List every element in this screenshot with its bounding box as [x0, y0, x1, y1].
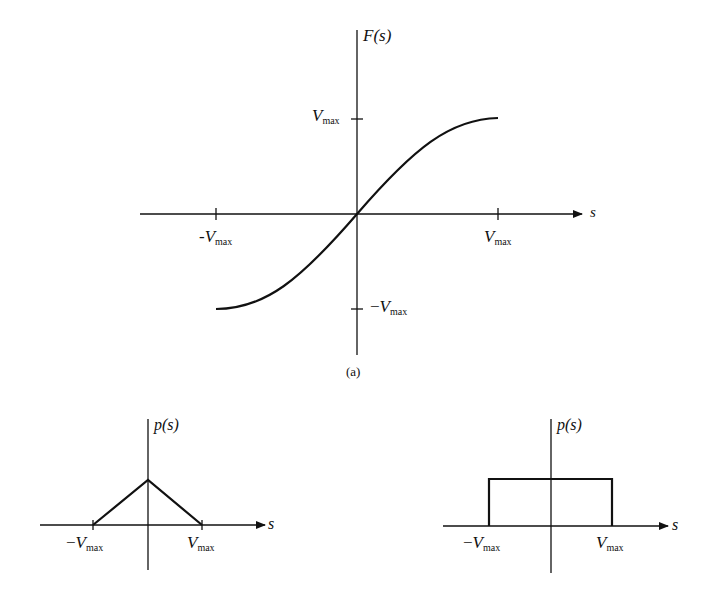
- top-plot-axes: [140, 30, 582, 355]
- top-y-axis-label: F(s): [363, 26, 391, 46]
- br-x-tick-neg-vmax: −Vmax: [463, 533, 500, 553]
- top-y-tick-vmax: Vmax: [312, 106, 340, 126]
- br-y-axis-label: p(s): [557, 416, 582, 434]
- bl-x-tick-neg-vmax: −Vmax: [66, 533, 103, 553]
- bl-x-tick-vmax: Vmax: [187, 533, 215, 553]
- caption-a: (a): [346, 364, 360, 380]
- bl-x-axis-label: s: [268, 515, 274, 533]
- top-y-tick-neg-vmax: −Vmax: [370, 297, 407, 317]
- br-x-axis-label: s: [672, 516, 678, 534]
- br-x-tick-vmax: Vmax: [596, 533, 624, 553]
- top-x-tick-vmax: Vmax: [484, 227, 512, 247]
- bl-y-axis-label: p(s): [154, 416, 179, 434]
- top-x-axis-label: s: [590, 204, 596, 221]
- top-x-tick-neg-vmax: -Vmax: [199, 227, 232, 247]
- figure-canvas: [0, 0, 703, 600]
